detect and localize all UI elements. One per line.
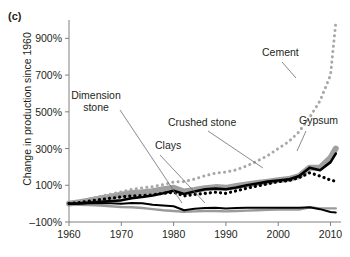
series-annotation-label: Crushed stone <box>168 116 236 128</box>
figure-panel-c: (c) Change in production since 1960 –100… <box>0 0 350 257</box>
y-tick-label: 300% <box>35 143 62 155</box>
y-tick-label: 900% <box>35 32 62 44</box>
leader-line <box>208 131 263 168</box>
x-tick-label: 1990 <box>214 228 238 240</box>
series-annotation-label: Dimensionstone <box>71 89 121 113</box>
y-tick-label: –100% <box>29 216 62 228</box>
y-tick-label: 700% <box>35 69 62 81</box>
y-axis-ticks: –100%100%300%500%700%900% <box>29 32 69 228</box>
annotation-labels: CementGypsumCrushed stoneClaysDimensions… <box>71 46 338 151</box>
x-tick-label: 2000 <box>267 228 291 240</box>
x-tick-label: 1960 <box>57 228 81 240</box>
x-tick-label: 1980 <box>162 228 186 240</box>
leader-line <box>282 62 296 78</box>
x-tick-label: 1970 <box>110 228 134 240</box>
series-annotation-label: Cement <box>262 46 299 58</box>
series-annotation-label: Clays <box>155 139 181 151</box>
y-tick-label: 500% <box>35 106 62 118</box>
x-tick-label: 2010 <box>319 228 343 240</box>
chart-canvas: –100%100%300%500%700%900% 19601970198019… <box>0 0 350 257</box>
x-axis-ticks: 196019701980199020002010 <box>57 222 342 240</box>
series-annotation-label: Gypsum <box>299 114 338 126</box>
y-tick-label: 100% <box>35 179 62 191</box>
